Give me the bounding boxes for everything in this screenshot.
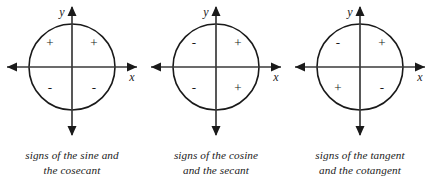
unit-circle-diagram-2: y x - + - + xyxy=(144,0,288,148)
quadrant-2-sign: - xyxy=(336,35,340,50)
caption-line-1: signs of the tangent xyxy=(288,148,432,163)
quadrant-4-sign: - xyxy=(380,80,384,95)
axes xyxy=(151,7,281,135)
axis-label-x: x xyxy=(272,70,279,84)
quadrant-1-sign: + xyxy=(378,35,385,50)
caption-line-2: and the cotangent xyxy=(288,163,432,178)
arrowhead-y-positive xyxy=(68,6,77,16)
diagram-tangent-cotangent: y x - + + - signs of the tangent and the… xyxy=(288,0,432,191)
arrowhead-y-negative xyxy=(212,126,221,136)
diagram-cosine-secant: y x - + - + signs of the cosine and the … xyxy=(144,0,288,191)
axes xyxy=(7,7,137,135)
quadrant-2-sign: - xyxy=(192,35,196,50)
caption-line-2: and the secant xyxy=(144,163,288,178)
quadrant-2-sign: + xyxy=(46,35,53,50)
arrowhead-y-negative xyxy=(68,126,77,136)
caption-line-2: the cosecant xyxy=(0,163,144,178)
axes xyxy=(295,7,425,135)
axis-label-y: y xyxy=(202,5,209,19)
quadrant-1-sign: + xyxy=(234,35,241,50)
caption-line-1: signs of the sine and xyxy=(0,148,144,163)
diagram-caption-3: signs of the tangent and the cotangent xyxy=(288,148,432,178)
unit-circle-diagram-1: y x + + - - xyxy=(0,0,144,148)
arrowhead-y-negative xyxy=(356,126,365,136)
quadrant-4-sign: + xyxy=(234,80,241,95)
arrowhead-y-positive xyxy=(356,6,365,16)
arrowhead-x-negative xyxy=(7,63,17,72)
quadrant-1-sign: + xyxy=(90,35,97,50)
diagram-sine-cosecant: y x + + - - signs of the sine and the co… xyxy=(0,0,144,191)
axis-label-y: y xyxy=(58,5,65,19)
diagram-caption-2: signs of the cosine and the secant xyxy=(144,148,288,178)
quadrant-4-sign: - xyxy=(92,80,96,95)
arrowhead-x-negative xyxy=(295,63,305,72)
axis-label-x: x xyxy=(128,70,135,84)
arrowhead-x-negative xyxy=(151,63,161,72)
axis-label-x: x xyxy=(416,70,423,84)
arrowhead-y-positive xyxy=(212,6,221,16)
quadrant-3-sign: - xyxy=(192,80,196,95)
quadrant-3-sign: - xyxy=(48,80,52,95)
diagram-caption-1: signs of the sine and the cosecant xyxy=(0,148,144,178)
unit-circle-diagram-3: y x - + + - xyxy=(288,0,432,148)
caption-line-1: signs of the cosine xyxy=(144,148,288,163)
trig-sign-diagram-row: y x + + - - signs of the sine and the co… xyxy=(0,0,432,191)
quadrant-3-sign: + xyxy=(334,80,341,95)
axis-label-y: y xyxy=(346,5,353,19)
